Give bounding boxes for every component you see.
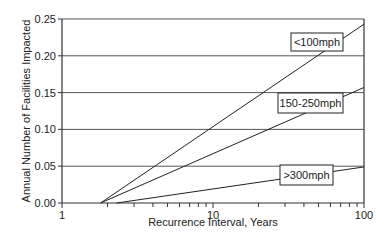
chart: 0.000.050.100.150.200.25110100 <100mph15…: [0, 0, 392, 241]
y-tick-label: 0.25: [35, 13, 56, 25]
series-label: <100mph: [294, 36, 340, 48]
y-tick-label: 0.15: [35, 87, 56, 99]
x-tick-label: 1: [59, 209, 65, 221]
y-tick-label: 0.05: [35, 160, 56, 172]
x-axis-title: Recurrence Interval, Years: [148, 216, 278, 228]
y-tick-label: 0.00: [35, 197, 56, 209]
series-label: 150-250mph: [280, 97, 342, 109]
y-tick-label: 0.10: [35, 123, 56, 135]
series-label: >300mph: [283, 169, 329, 181]
y-tick-label: 0.20: [35, 50, 56, 62]
y-axis-title: Annual Number of Facilities Impacted: [20, 20, 32, 203]
chart-svg: 0.000.050.100.150.200.25110100 <100mph15…: [0, 0, 392, 241]
x-tick-label: 100: [355, 209, 373, 221]
